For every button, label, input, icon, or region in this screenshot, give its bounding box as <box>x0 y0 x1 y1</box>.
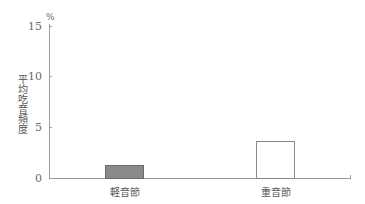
bar-chart: 15 10 5 0 % 平均吃音頻度 軽音節 重音節 <box>0 0 365 204</box>
y-tick-label-15: 15 <box>22 21 42 32</box>
bar-light-syllable <box>105 165 144 179</box>
x-axis-end-tick <box>350 175 351 179</box>
y-tick-10 <box>49 76 52 77</box>
x-axis <box>49 178 351 179</box>
y-unit-label: % <box>46 12 55 22</box>
y-tick-5 <box>49 127 52 128</box>
y-axis <box>49 24 50 179</box>
x-label-light-syllable: 軽音節 <box>95 184 155 199</box>
bar-heavy-syllable <box>256 141 295 179</box>
y-tick-15 <box>49 26 52 27</box>
x-label-heavy-syllable: 重音節 <box>246 184 306 199</box>
y-axis-label: 平均吃音頻度 <box>15 74 27 134</box>
y-tick-label-0: 0 <box>22 173 42 184</box>
